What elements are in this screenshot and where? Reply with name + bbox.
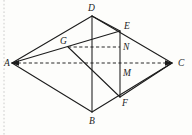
figure-background xyxy=(0,0,192,135)
vertex-label-A: A xyxy=(3,58,10,68)
vertex-label-B: B xyxy=(89,116,95,126)
geometry-figure: A B C D E F G M N xyxy=(0,0,192,135)
vertex-label-N: N xyxy=(122,42,130,52)
vertex-label-D: D xyxy=(87,3,95,13)
vertex-label-E: E xyxy=(123,21,130,31)
figure-canvas: A B C D E F G M N xyxy=(0,0,192,135)
vertex-label-F: F xyxy=(121,98,128,108)
vertex-label-C: C xyxy=(178,58,185,68)
vertex-label-M: M xyxy=(122,68,132,78)
vertex-label-G: G xyxy=(60,36,67,46)
